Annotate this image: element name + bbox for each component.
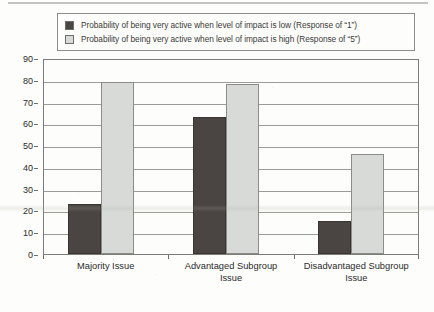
y-tick-label: 70	[23, 98, 33, 108]
legend-entry-low: Probability of being very active when le…	[65, 18, 408, 32]
plot-area	[43, 59, 419, 255]
x-axis-group-label-2: Disadvantaged SubgroupIssue	[286, 261, 427, 284]
x-axis-labels: Majority IssueAdvantaged SubgroupIssueDi…	[43, 261, 419, 295]
x-axis-group-label-0: Majority Issue	[35, 261, 176, 273]
x-axis-group-label-1: Advantaged SubgroupIssue	[160, 261, 301, 284]
y-tick-label: 60	[23, 119, 33, 129]
y-axis: 0102030405060708090	[12, 59, 38, 255]
x-tick-mark	[43, 255, 44, 259]
x-tick-mark	[294, 255, 295, 259]
legend-label-high: Probability of being very active when le…	[81, 34, 360, 44]
y-tick-mark	[34, 124, 38, 125]
bar-low-group-0	[68, 204, 101, 254]
bar-high-group-1	[226, 84, 259, 254]
y-tick-label: 80	[23, 76, 33, 86]
y-tick-label: 10	[23, 228, 33, 238]
y-tick-label: 90	[23, 54, 33, 64]
y-tick-mark	[34, 211, 38, 212]
y-tick-label: 40	[23, 163, 33, 173]
scan-artifact-line-top	[8, 2, 428, 4]
y-tick-mark	[34, 190, 38, 191]
y-tick-label: 20	[23, 206, 33, 216]
bar-high-group-0	[101, 82, 134, 254]
y-tick-label: 30	[23, 185, 33, 195]
legend-entry-high: Probability of being very active when le…	[65, 32, 408, 46]
legend-label-low: Probability of being very active when le…	[81, 20, 357, 30]
legend-swatch-high-icon	[65, 35, 74, 44]
y-tick-mark	[34, 168, 38, 169]
x-axis-ticks	[43, 255, 419, 260]
chart-legend: Probability of being very active when le…	[57, 13, 415, 51]
y-tick-mark	[34, 59, 38, 60]
bars-layer	[44, 60, 418, 254]
y-tick-mark	[34, 146, 38, 147]
y-tick-label: 50	[23, 141, 33, 151]
x-tick-mark	[168, 255, 169, 259]
bar-high-group-2	[351, 154, 384, 254]
y-tick-mark	[34, 233, 38, 234]
y-tick-label: 0	[28, 250, 33, 260]
y-tick-mark	[34, 103, 38, 104]
y-tick-mark	[34, 81, 38, 82]
bar-low-group-1	[193, 117, 226, 254]
figure-caption-clipped	[0, 303, 434, 312]
bar-low-group-2	[318, 221, 351, 254]
x-tick-mark	[418, 255, 419, 259]
y-tick-mark	[34, 255, 38, 256]
legend-swatch-low-icon	[65, 21, 74, 30]
